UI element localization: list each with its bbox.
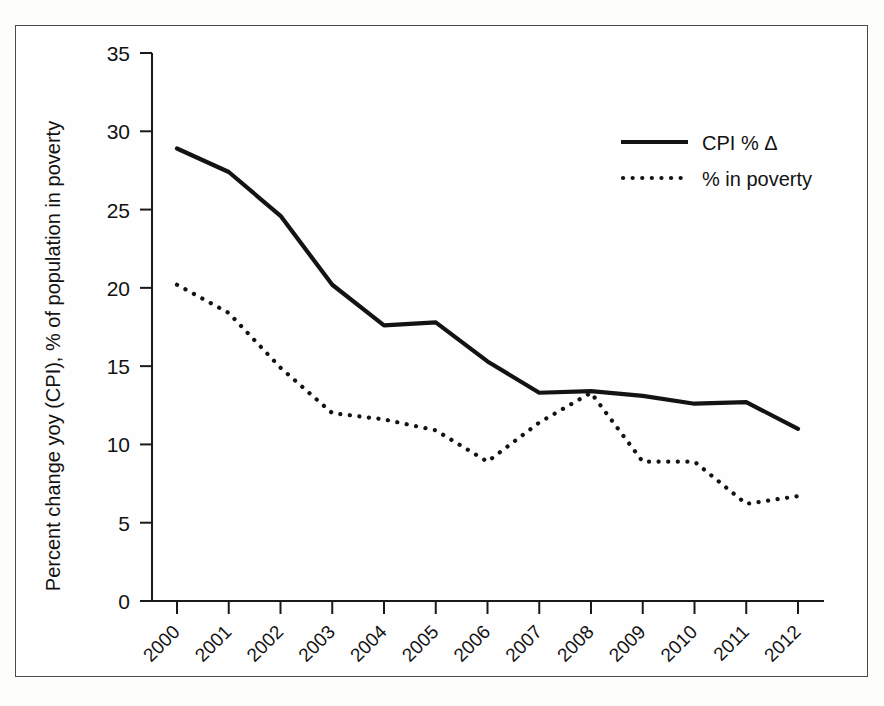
x-tick-label: 2004 xyxy=(346,621,391,666)
x-tick-label: 2002 xyxy=(243,621,288,666)
x-tick-label: 2007 xyxy=(501,621,546,666)
y-tick-label: 35 xyxy=(107,42,130,65)
x-tick-label: 2005 xyxy=(398,621,443,666)
y-tick-label: 15 xyxy=(107,355,130,378)
y-tick-label: 0 xyxy=(118,590,130,613)
x-tick-label: 2000 xyxy=(139,621,184,666)
x-tick-label: 2009 xyxy=(605,621,650,666)
y-tick-label: 25 xyxy=(107,199,130,222)
x-tick-label: 2008 xyxy=(553,621,598,666)
chart-page: Percent change yoy (CPI), % of populatio… xyxy=(0,0,884,706)
x-tick-label: 2003 xyxy=(294,621,339,666)
chart-legend: CPI % Δ % in poverty xyxy=(621,132,812,190)
legend-label-0: CPI % Δ xyxy=(702,132,778,154)
x-tick-label: 2012 xyxy=(760,621,805,666)
series-line-cpi xyxy=(177,149,798,429)
x-tick-label: 2011 xyxy=(709,621,753,665)
legend-label-1: % in poverty xyxy=(702,168,812,190)
x-tick-label: 2006 xyxy=(450,621,495,666)
y-axis-ticks: 05101520253035 xyxy=(107,42,152,613)
series-layer xyxy=(177,149,798,504)
y-tick-label: 30 xyxy=(107,120,130,143)
y-axis-title: Percent change yoy (CPI), % of populatio… xyxy=(42,121,64,591)
y-tick-label: 20 xyxy=(107,277,130,300)
y-tick-label: 5 xyxy=(118,512,130,535)
line-chart-plot: Percent change yoy (CPI), % of populatio… xyxy=(16,26,867,676)
x-tick-label: 2010 xyxy=(657,621,702,666)
y-tick-label: 10 xyxy=(107,433,130,456)
series-line-poverty xyxy=(177,285,798,504)
x-tick-label: 2001 xyxy=(191,621,236,666)
x-axis-ticks: 2000200120022003200420052006200720082009… xyxy=(139,601,805,666)
figure-frame: Percent change yoy (CPI), % of populatio… xyxy=(15,25,868,677)
